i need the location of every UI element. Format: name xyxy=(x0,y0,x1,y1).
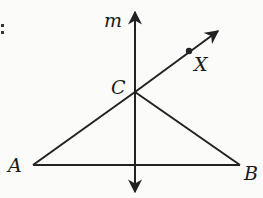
segment-ac xyxy=(33,92,135,165)
geometry-diagram: m C X A B xyxy=(0,0,263,198)
label-m: m xyxy=(104,9,122,31)
label-b: B xyxy=(243,162,258,184)
point-x-dot xyxy=(186,48,192,54)
label-x: X xyxy=(192,53,209,75)
edge-colon-mark xyxy=(1,24,4,34)
label-c: C xyxy=(111,76,126,98)
label-a: A xyxy=(6,154,22,176)
segment-cb xyxy=(135,92,240,165)
